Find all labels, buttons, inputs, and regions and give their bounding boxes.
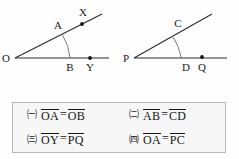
segment-left-4: OA bbox=[143, 133, 161, 147]
option-item-2[interactable]: ㈡ AB=CD bbox=[119, 108, 225, 123]
option-item-4[interactable]: ㈣ OA=PC bbox=[119, 132, 225, 147]
right-upper-ray bbox=[134, 14, 212, 58]
left-label-O: O bbox=[2, 52, 10, 64]
segment-left-1: OA bbox=[41, 109, 59, 123]
right-label-P: P bbox=[123, 52, 129, 64]
relation-1: = bbox=[60, 108, 67, 120]
right-label-D: D bbox=[182, 61, 190, 73]
segment-left-2: AB bbox=[143, 109, 160, 123]
option-item-1[interactable]: ㈠ OA=OB bbox=[13, 108, 119, 123]
options-grid: ㈠ OA=OB ㈡ AB=CD ㈢ OY=PQ ㈣ OA bbox=[13, 103, 225, 152]
options-box: ㈠ OA=OB ㈡ AB=CD ㈢ OY=PQ ㈣ OA bbox=[12, 102, 226, 153]
right-label-Q: Q bbox=[198, 61, 206, 73]
segment-left-3: OY bbox=[41, 133, 59, 147]
right-figure: P C D Q bbox=[123, 14, 227, 73]
left-label-A: A bbox=[54, 19, 62, 31]
right-point-q-dot bbox=[200, 55, 204, 59]
relation-2: = bbox=[161, 108, 168, 120]
left-point-x-dot bbox=[80, 22, 84, 26]
relation-3: = bbox=[60, 132, 67, 144]
option-expression-3: OY=PQ bbox=[41, 132, 84, 147]
geometry-figures: O A B X Y P C D Q bbox=[0, 0, 239, 98]
option-expression-2: AB=CD bbox=[143, 108, 186, 123]
screenshot-root: O A B X Y P C D Q bbox=[0, 0, 239, 159]
segment-right-3: PQ bbox=[68, 133, 84, 147]
option-expression-1: OA=OB bbox=[41, 108, 85, 123]
left-label-X: X bbox=[79, 6, 87, 18]
left-label-B: B bbox=[66, 61, 73, 73]
option-expression-4: OA=PC bbox=[143, 132, 185, 147]
option-marker-2: ㈡ bbox=[129, 110, 139, 120]
option-marker-1: ㈠ bbox=[27, 110, 37, 120]
left-figure: O A B X Y bbox=[2, 6, 109, 73]
option-marker-4: ㈣ bbox=[129, 135, 139, 145]
option-marker-3: ㈢ bbox=[27, 135, 37, 145]
right-label-C: C bbox=[174, 17, 181, 29]
segment-right-4: PC bbox=[170, 133, 185, 147]
left-label-Y: Y bbox=[86, 61, 94, 73]
left-point-y-dot bbox=[88, 56, 92, 60]
segment-right-2: CD bbox=[169, 109, 186, 123]
option-item-3[interactable]: ㈢ OY=PQ bbox=[13, 132, 119, 147]
right-angle-arc bbox=[172, 36, 181, 58]
left-angle-arc bbox=[62, 34, 70, 58]
segment-right-1: OB bbox=[68, 109, 85, 123]
relation-4: = bbox=[162, 132, 169, 144]
